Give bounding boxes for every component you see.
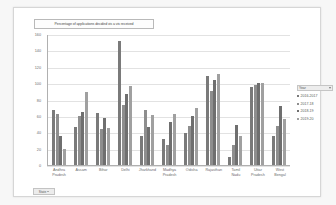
x-axis-labels: AndhraPradeshAssamBiharDelhiJharkhandMad… <box>48 168 291 188</box>
bar[interactable] <box>261 83 264 165</box>
bar[interactable] <box>85 92 88 165</box>
plot-area <box>47 35 290 166</box>
x-axis-line <box>47 165 290 166</box>
bar-group <box>52 35 66 165</box>
legend[interactable]: Year 2016-20172017-182018-192019-20 <box>297 85 333 123</box>
x-tick-label: UttarPradesh <box>247 168 269 188</box>
legend-label: 2017-18 <box>300 102 313 106</box>
legend-header-label: Year <box>299 86 306 90</box>
legend-label: 2016-2017 <box>300 94 317 98</box>
bar[interactable] <box>129 86 132 165</box>
x-tick-label: Jharkhand <box>136 168 158 188</box>
legend-swatch <box>297 95 299 97</box>
x-tick-label: MadhyaPradesh <box>158 168 180 188</box>
bar-group <box>96 35 110 165</box>
legend-label: 2018-19 <box>300 109 313 113</box>
bar[interactable] <box>107 128 110 165</box>
bar[interactable] <box>283 119 286 165</box>
state-filter-label: State <box>39 189 46 195</box>
y-tick-label: 120 <box>14 66 41 70</box>
legend-item[interactable]: 2016-2017 <box>297 93 333 101</box>
bar[interactable] <box>63 149 66 165</box>
bar-group <box>162 35 176 165</box>
bar-group <box>250 35 264 165</box>
funnel-icon[interactable] <box>47 191 49 192</box>
y-tick-label: 0 <box>14 164 41 168</box>
bar[interactable] <box>195 108 198 165</box>
legend-item[interactable]: 2019-20 <box>297 115 333 123</box>
legend-item[interactable]: 2018-19 <box>297 108 333 116</box>
x-tick-label: Assam <box>70 168 92 188</box>
y-tick-label: 40 <box>14 131 41 135</box>
chart-title[interactable]: Percentage of applications decided vis a… <box>34 19 154 29</box>
bar-group <box>272 35 286 165</box>
x-tick-label: WestBengal <box>269 168 291 188</box>
bar-group <box>74 35 88 165</box>
y-tick-label: 80 <box>14 99 41 103</box>
y-tick-label: 160 <box>14 33 41 37</box>
legend-swatch <box>297 110 299 112</box>
legend-item[interactable]: 2017-18 <box>297 100 333 108</box>
y-tick-label: 140 <box>14 49 41 53</box>
screenshot-root: Percentage of applications decided vis a… <box>0 0 336 205</box>
bar-groups <box>48 35 290 165</box>
bar-group <box>228 35 242 165</box>
x-tick-label: Delhi <box>114 168 136 188</box>
legend-swatch <box>297 118 299 120</box>
bar-group <box>118 35 132 165</box>
bar-group <box>206 35 220 165</box>
x-tick-label: AndhraPradesh <box>48 168 70 188</box>
bar[interactable] <box>217 74 220 165</box>
bar-group <box>140 35 154 165</box>
bar[interactable] <box>151 115 154 165</box>
y-tick-label: 60 <box>14 115 41 119</box>
legend-header[interactable]: Year <box>297 85 333 91</box>
legend-swatch <box>297 103 299 105</box>
y-axis: 020406080100120140160 <box>14 8 47 166</box>
x-tick-label: Rajasthan <box>203 168 225 188</box>
x-tick-label: Bihar <box>92 168 114 188</box>
y-tick-label: 20 <box>14 148 41 152</box>
legend-label: 2019-20 <box>300 117 313 121</box>
x-tick-label: TamilNadu <box>225 168 247 188</box>
state-filter-button[interactable]: State <box>33 188 55 195</box>
chart-container[interactable]: Percentage of applications decided vis a… <box>13 7 321 197</box>
y-tick-label: 100 <box>14 82 41 86</box>
chevron-down-icon[interactable] <box>329 87 331 89</box>
bar[interactable] <box>239 136 242 165</box>
gridline <box>47 166 290 167</box>
bar[interactable] <box>173 114 176 165</box>
bar-group <box>184 35 198 165</box>
x-tick-label: Odisha <box>181 168 203 188</box>
